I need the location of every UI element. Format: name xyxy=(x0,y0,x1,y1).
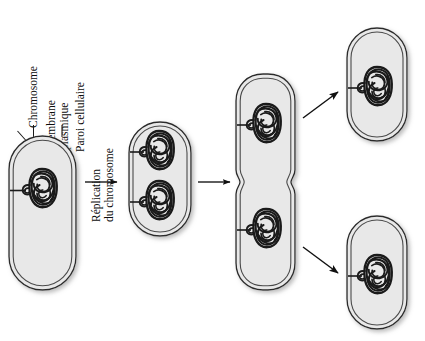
diagram-svg xyxy=(0,0,425,341)
cell-wall xyxy=(347,216,407,329)
stage-2-replicated-cell[interactable] xyxy=(129,122,191,236)
cell-wall xyxy=(347,28,407,141)
arrow-separation-bottom xyxy=(303,247,338,273)
stage-3-dividing-cell[interactable] xyxy=(236,74,295,290)
arrow-separation-top xyxy=(303,92,338,118)
cell-wall xyxy=(9,136,76,290)
stage-4-daughter-cell-top[interactable] xyxy=(347,28,407,141)
diagram-canvas: Chromosome Membrane plasmique Paroi cell… xyxy=(0,0,425,341)
stage-5-daughter-cell-bottom[interactable] xyxy=(347,216,407,329)
stage-1-parent-cell[interactable] xyxy=(9,136,76,290)
